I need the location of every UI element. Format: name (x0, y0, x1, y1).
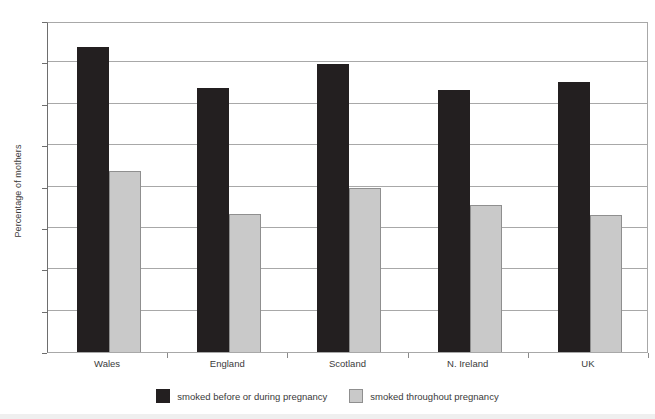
x-tick-label: England (157, 358, 297, 369)
bar (197, 88, 229, 352)
y-tick-mark (42, 353, 47, 354)
bar (438, 90, 470, 352)
x-tick-label: UK (518, 358, 655, 369)
bar (470, 205, 502, 352)
x-tick-label: Wales (37, 358, 177, 369)
legend-label: smoked before or during pregnancy (177, 391, 327, 402)
bar-group (168, 21, 288, 352)
x-tick-label: Scotland (278, 358, 418, 369)
bar (349, 188, 381, 352)
y-axis-title: Percentage of mothers (13, 121, 23, 261)
bar-group (48, 21, 168, 352)
plot-area (47, 22, 648, 353)
page-edge (0, 414, 655, 419)
legend-item: smoked before or during pregnancy (156, 389, 327, 403)
legend-swatch-icon (156, 389, 170, 403)
bar (590, 215, 622, 352)
bar (77, 47, 109, 352)
x-tick-label: N. Ireland (398, 358, 538, 369)
legend-label: smoked throughout pregnancy (370, 391, 498, 402)
bar (109, 171, 141, 352)
legend-swatch-icon (349, 389, 363, 403)
bar-chart: Percentage of mothers 0510152025303540 W… (0, 0, 655, 419)
bar (229, 214, 261, 352)
bar (317, 64, 349, 352)
chart-legend: smoked before or during pregnancysmoked … (0, 389, 655, 403)
bar (558, 82, 590, 352)
bar-group (529, 21, 649, 352)
bar-group (288, 21, 408, 352)
bar-group (409, 21, 529, 352)
legend-item: smoked throughout pregnancy (349, 389, 498, 403)
